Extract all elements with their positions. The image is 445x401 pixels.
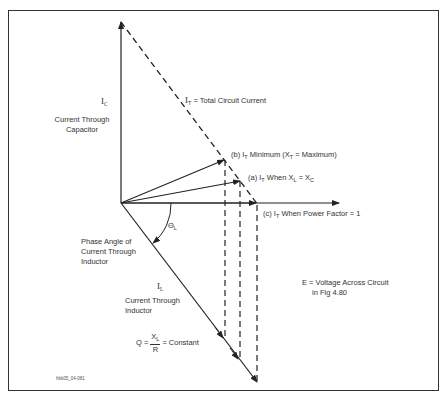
il-label: IL — [157, 281, 163, 294]
phasor-diagram — [0, 0, 445, 401]
it-label: IT = Total Circuit Current — [185, 95, 266, 108]
il-vector — [121, 203, 257, 382]
phase-angle-description: Phase Angle of Current Through Inductor — [81, 237, 136, 267]
q-formula: Q = XL R = Constant — [136, 332, 199, 354]
ic-description: Current Through Capacitor — [52, 115, 112, 135]
b-label: (b) IT Minimum (XT = Maximum) — [231, 150, 337, 162]
it-a-vector — [121, 181, 240, 203]
e-description: E = Voltage Across Circuit in Fig 4.80 — [302, 278, 389, 298]
it-b-vector — [121, 160, 224, 203]
ic-label: IC — [101, 96, 108, 109]
c-label: (c) IT When Power Factor = 1 — [263, 209, 360, 221]
a-label: (a) IT When XL = XC — [248, 173, 314, 185]
figure-id: hbk05_04-081 — [56, 374, 85, 384]
it-total-locus — [121, 22, 258, 205]
theta-label: ΘL — [168, 221, 177, 233]
il-description: Current Through Inductor — [125, 296, 180, 316]
